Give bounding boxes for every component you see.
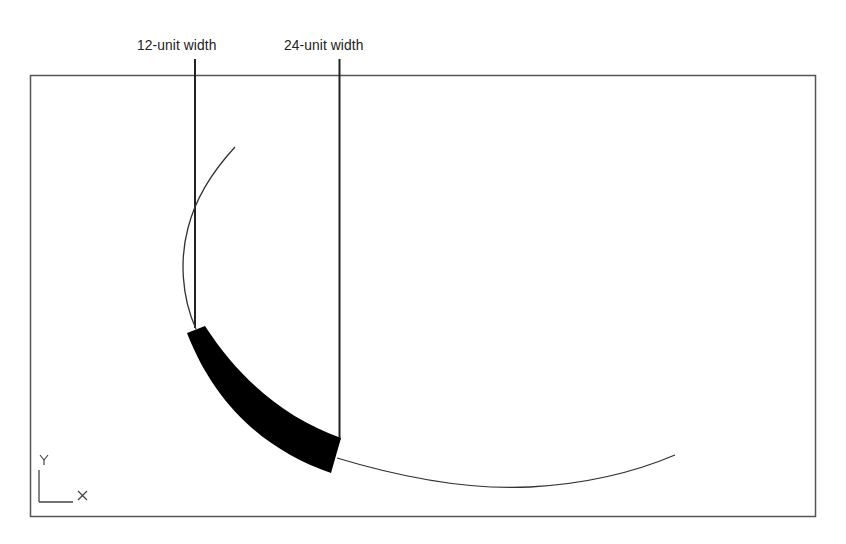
drawing-canvas [0,0,846,544]
tapered-wide-segment [187,326,341,473]
thin-polyline-start [183,147,235,329]
ucs-icon [39,455,87,502]
ucs-x-icon [78,491,87,500]
ucs-y-icon [40,455,48,465]
drawing-frame [31,76,816,517]
thin-polyline-end [337,455,675,487]
